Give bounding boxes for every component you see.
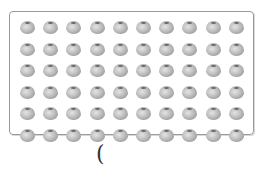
apple-icon	[159, 43, 174, 56]
apple-icon	[113, 107, 128, 120]
apple-icon	[182, 64, 197, 77]
apple-row	[20, 125, 252, 147]
apple-icon	[229, 21, 244, 34]
apple-icon	[66, 107, 81, 120]
apple-icon	[206, 43, 221, 56]
apple-row	[20, 39, 252, 61]
apple-icon	[136, 107, 151, 120]
apple-icon	[229, 64, 244, 77]
apple-icon	[90, 21, 105, 34]
apple-icon	[136, 64, 151, 77]
apple-icon	[182, 107, 197, 120]
apple-icon	[43, 86, 58, 99]
answer-parenthesis: (	[96, 143, 105, 165]
apple-icon	[90, 64, 105, 77]
apple-icon	[113, 86, 128, 99]
apple-row	[20, 17, 252, 39]
apple-icon	[206, 129, 221, 142]
apple-icon	[113, 64, 128, 77]
apple-icon	[66, 21, 81, 34]
apple-icon	[20, 86, 35, 99]
apple-icon	[43, 107, 58, 120]
apple-icon	[136, 21, 151, 34]
apple-icon	[182, 86, 197, 99]
apple-row	[20, 103, 252, 125]
apple-icon	[136, 129, 151, 142]
apple-icon	[206, 86, 221, 99]
apple-icon	[20, 129, 35, 142]
apple-icon	[113, 129, 128, 142]
apple-icon	[206, 107, 221, 120]
apple-icon	[90, 107, 105, 120]
apple-icon	[20, 43, 35, 56]
apple-icon	[20, 64, 35, 77]
apple-icon	[43, 43, 58, 56]
apple-icon	[66, 64, 81, 77]
apple-grid	[20, 17, 252, 146]
apple-icon	[159, 64, 174, 77]
apple-icon	[159, 107, 174, 120]
open-paren: (	[96, 141, 105, 166]
apple-icon	[182, 129, 197, 142]
apple-icon	[43, 21, 58, 34]
apple-icon	[206, 21, 221, 34]
apple-icon	[90, 86, 105, 99]
apple-icon	[159, 21, 174, 34]
apple-icon	[159, 129, 174, 142]
apple-icon	[90, 129, 105, 142]
apple-icon	[182, 43, 197, 56]
apple-icon	[113, 21, 128, 34]
apple-icon	[229, 43, 244, 56]
apple-icon	[229, 86, 244, 99]
apple-icon	[66, 43, 81, 56]
apple-icon	[206, 64, 221, 77]
apple-icon	[20, 107, 35, 120]
apple-row	[20, 60, 252, 82]
apple-icon	[229, 107, 244, 120]
apple-icon	[113, 43, 128, 56]
apple-icon	[66, 129, 81, 142]
apple-icon	[136, 43, 151, 56]
apple-icon	[229, 129, 244, 142]
apple-icon	[90, 43, 105, 56]
apple-array-box	[9, 11, 254, 135]
apple-icon	[182, 21, 197, 34]
apple-icon	[43, 64, 58, 77]
apple-icon	[136, 86, 151, 99]
apple-icon	[159, 86, 174, 99]
apple-row	[20, 82, 252, 104]
apple-icon	[20, 21, 35, 34]
apple-icon	[43, 129, 58, 142]
apple-icon	[66, 86, 81, 99]
